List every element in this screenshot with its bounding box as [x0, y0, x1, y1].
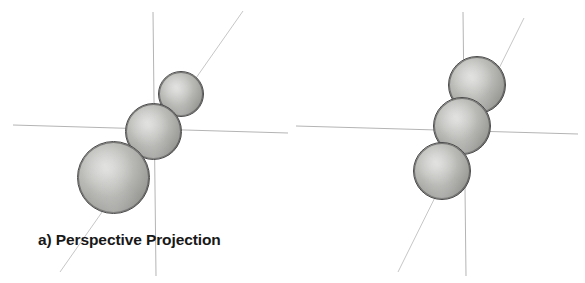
- sphere-near-perspective: [77, 141, 150, 214]
- sphere-near-orthographic: [413, 142, 471, 200]
- projection-comparison-figure: a) Perspective Projection b) Orthographi…: [0, 0, 585, 283]
- panel-orthographic-projection: b) Orthographic Projection: [292, 0, 585, 283]
- caption-perspective-projection: a) Perspective Projection: [38, 232, 221, 248]
- panel-perspective-projection: a) Perspective Projection: [0, 0, 292, 283]
